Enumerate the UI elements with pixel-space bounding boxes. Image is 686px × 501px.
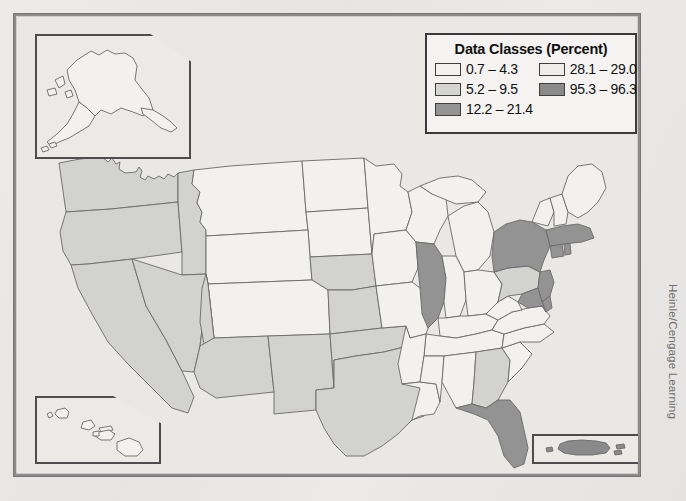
state-new-york bbox=[492, 220, 550, 272]
legend-column-left: 0.7 – 4.3 5.2 – 9.5 12.2 – 21.4 bbox=[435, 61, 533, 117]
pr-island-east-1 bbox=[616, 444, 625, 449]
alaska-panhandle bbox=[141, 108, 177, 132]
legend-entry: 5.2 – 9.5 bbox=[435, 81, 533, 97]
legend-entry: 28.1 – 29.0 bbox=[539, 61, 637, 77]
state-vermont bbox=[532, 198, 554, 226]
legend-swatch-icon bbox=[539, 83, 565, 96]
legend-title: Data Classes (Percent) bbox=[435, 41, 627, 57]
state-florida bbox=[456, 400, 528, 468]
legend-column-right: 28.1 – 29.0 95.3 – 96.3 bbox=[539, 61, 637, 117]
alaska-peninsula bbox=[47, 102, 95, 146]
legend-swatch-icon bbox=[435, 103, 461, 116]
state-oregon bbox=[60, 202, 182, 265]
state-arizona bbox=[194, 336, 274, 398]
state-montana bbox=[192, 161, 308, 236]
state-alabama bbox=[442, 352, 476, 408]
legend-entry-label: 0.7 – 4.3 bbox=[466, 61, 518, 77]
state-wyoming bbox=[206, 230, 312, 284]
state-rhode-island bbox=[564, 243, 571, 255]
map-legend: Data Classes (Percent) 0.7 – 4.3 5.2 – 9… bbox=[425, 33, 637, 134]
figure-page: Data Classes (Percent) 0.7 – 4.3 5.2 – 9… bbox=[0, 0, 686, 501]
state-maine bbox=[562, 164, 606, 218]
hawaii-kauai bbox=[55, 408, 69, 418]
alaska-island-1 bbox=[55, 76, 65, 88]
pr-island-west bbox=[546, 447, 553, 452]
region-puerto-rico bbox=[558, 440, 610, 455]
legend-swatch-icon bbox=[435, 83, 461, 96]
credit-text: Heinle/Cengage Learning bbox=[667, 284, 679, 419]
inset-alaska bbox=[35, 34, 191, 159]
legend-entry: 0.7 – 4.3 bbox=[435, 61, 533, 77]
state-georgia bbox=[472, 348, 510, 408]
alaska-island-2 bbox=[47, 88, 57, 96]
legend-entry: 12.2 – 21.4 bbox=[435, 101, 533, 117]
hawaii-niihau bbox=[47, 412, 53, 418]
state-kansas bbox=[328, 286, 382, 334]
legend-entry-label: 28.1 – 29.0 bbox=[570, 61, 637, 77]
alaska-shape-layer bbox=[37, 36, 189, 157]
hawaii-big-island bbox=[117, 438, 143, 456]
legend-swatch-icon bbox=[539, 63, 565, 76]
state-iowa bbox=[372, 230, 418, 286]
pr-island-east-2 bbox=[614, 450, 622, 455]
map-canvas: Data Classes (Percent) 0.7 – 4.3 5.2 – 9… bbox=[16, 16, 638, 474]
legend-entry-label: 12.2 – 21.4 bbox=[466, 101, 533, 117]
state-colorado bbox=[208, 280, 330, 338]
state-north-dakota bbox=[302, 158, 368, 212]
alaska-island-3 bbox=[65, 90, 73, 98]
alaska-aleutian-2 bbox=[41, 146, 49, 152]
legend-swatch-icon bbox=[435, 63, 461, 76]
credit-wrap: Heinle/Cengage Learning bbox=[667, 284, 683, 484]
legend-entry-label: 5.2 – 9.5 bbox=[466, 81, 518, 97]
hawaii-lanai bbox=[93, 431, 99, 436]
legend-entry: 95.3 – 96.3 bbox=[539, 81, 637, 97]
hawaii-oahu bbox=[81, 420, 95, 430]
state-massachusetts bbox=[546, 224, 594, 246]
legend-columns: 0.7 – 4.3 5.2 – 9.5 12.2 – 21.4 bbox=[435, 61, 627, 117]
puerto-rico-shape-layer bbox=[534, 436, 638, 462]
inset-puerto-rico bbox=[532, 434, 638, 464]
map-frame: Data Classes (Percent) 0.7 – 4.3 5.2 – 9… bbox=[13, 13, 641, 477]
legend-entry-label: 95.3 – 96.3 bbox=[570, 81, 637, 97]
state-south-dakota bbox=[306, 208, 372, 257]
